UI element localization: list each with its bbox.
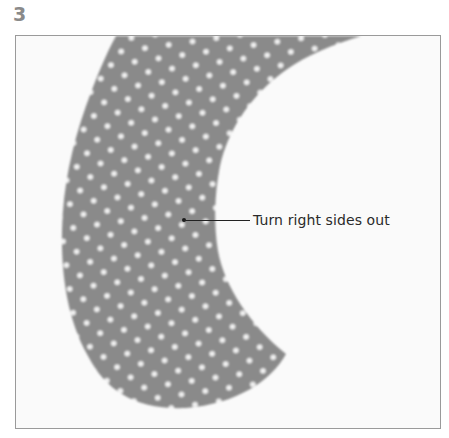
figure-frame: Turn right sides out [15, 35, 441, 429]
callout-label: Turn right sides out [253, 211, 390, 229]
callout-leader-line [184, 220, 250, 221]
step-number: 3 [13, 3, 26, 25]
fabric-crescent-illustration [16, 36, 440, 428]
